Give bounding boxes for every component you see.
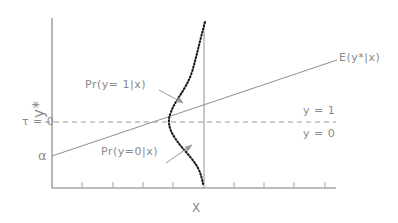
conditional-density-curve [169, 22, 205, 184]
tau-threshold-label: τ = 0 [22, 115, 54, 128]
latent-variable-threshold-diagram: y* X τ = 0 α Pr(y= 1|x) Pr(y=0|x) E(y*|x… [0, 0, 398, 223]
y-equals-0-region-label: y = 0 [303, 127, 335, 140]
pr-y-equals-0-label: Pr(y=0|x) [101, 145, 158, 158]
x-axis-label: X [192, 201, 201, 215]
expectation-regression-line [52, 60, 337, 156]
y-equals-1-region-label: y = 1 [303, 104, 335, 117]
intercept-alpha-label: α [38, 148, 47, 163]
pr-y-equals-1-label: Pr(y= 1|x) [85, 78, 146, 91]
diagram-canvas [0, 0, 398, 223]
expectation-line-label: E(y*|x) [339, 51, 380, 64]
